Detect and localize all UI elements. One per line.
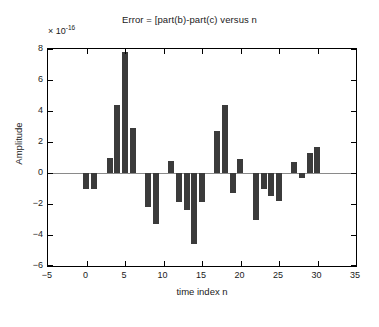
x-tick-label: 0 (83, 270, 88, 280)
x-tick-label: 30 (311, 270, 321, 280)
y-tick-label: 8 (38, 43, 43, 53)
bar (307, 153, 313, 173)
bar (214, 131, 220, 173)
bar (107, 158, 113, 174)
x-tick-mark (318, 261, 319, 266)
bar (222, 105, 228, 173)
bar (261, 173, 267, 189)
y-tick-label: 4 (38, 105, 43, 115)
chart-figure: Error = [part(b)-part(c) versus n × 10-1… (0, 0, 379, 327)
y-tick-mark-right (351, 142, 356, 143)
y-tick-mark (48, 204, 53, 205)
bar (314, 147, 320, 173)
bar (145, 173, 151, 207)
x-tick-mark-top (279, 49, 280, 54)
y-tick-mark (48, 235, 53, 236)
x-axis-tick-labels: −505101520253035 (47, 270, 357, 284)
plot-area (47, 48, 357, 267)
x-tick-mark-top (241, 49, 242, 54)
y-tick-label: −2 (33, 198, 43, 208)
y-tick-mark-right (351, 265, 356, 266)
y-tick-label: 0 (38, 167, 43, 177)
bar (168, 161, 174, 173)
x-tick-label: 25 (273, 270, 283, 280)
x-tick-mark (164, 261, 165, 266)
bar (184, 173, 190, 210)
x-tick-mark (125, 261, 126, 266)
x-tick-label: 10 (157, 270, 167, 280)
y-tick-mark-right (351, 80, 356, 81)
bar (114, 105, 120, 173)
bar (191, 173, 197, 244)
y-axis-multiplier-base: × 10 (48, 26, 66, 36)
y-axis-title: Amplitude (13, 99, 24, 189)
y-tick-mark (48, 265, 53, 266)
y-tick-mark-right (351, 235, 356, 236)
x-tick-mark-top (125, 49, 126, 54)
y-tick-mark-right (351, 173, 356, 174)
x-tick-mark-top (164, 49, 165, 54)
bar (237, 159, 243, 173)
y-tick-mark-right (351, 204, 356, 205)
bar (153, 173, 159, 224)
bar (83, 173, 89, 189)
x-tick-mark (241, 261, 242, 266)
bar (268, 173, 274, 196)
bar (91, 173, 97, 189)
x-tick-mark (279, 261, 280, 266)
bar (199, 173, 205, 202)
x-tick-mark (87, 261, 88, 266)
y-tick-mark-right (351, 111, 356, 112)
y-tick-mark (48, 173, 53, 174)
y-tick-label: 6 (38, 74, 43, 84)
y-axis-multiplier-exponent: -16 (66, 24, 75, 31)
x-tick-mark (202, 261, 203, 266)
x-tick-mark-top (202, 49, 203, 54)
x-tick-label: 15 (196, 270, 206, 280)
bar (299, 173, 305, 178)
bar (276, 173, 282, 201)
bar (230, 173, 236, 193)
x-tick-label: −5 (42, 270, 52, 280)
x-axis-title: time index n (47, 286, 357, 297)
x-tick-mark-top (318, 49, 319, 54)
x-tick-label: 35 (350, 270, 360, 280)
y-tick-mark-right (351, 49, 356, 50)
bar (176, 173, 182, 202)
y-tick-label: 2 (38, 136, 43, 146)
bar (122, 52, 128, 173)
y-tick-label: −6 (33, 260, 43, 270)
x-tick-mark-top (87, 49, 88, 54)
y-tick-label: −4 (33, 229, 43, 239)
x-tick-label: 20 (234, 270, 244, 280)
y-tick-mark (48, 142, 53, 143)
bar (130, 128, 136, 173)
bar (291, 162, 297, 173)
y-tick-mark (48, 80, 53, 81)
y-axis-multiplier-label: × 10-16 (48, 24, 75, 36)
x-tick-label: 5 (121, 270, 126, 280)
y-tick-mark (48, 111, 53, 112)
bar (253, 173, 259, 220)
y-tick-mark (48, 49, 53, 50)
